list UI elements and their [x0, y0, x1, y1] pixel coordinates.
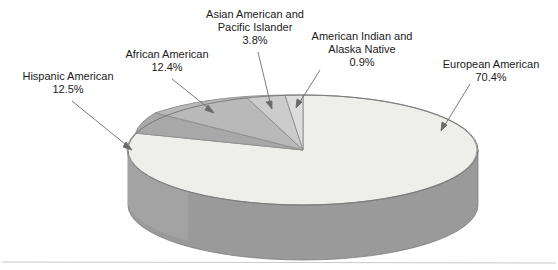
- label-african-american: African American 12.4%: [108, 48, 226, 74]
- label-european-american: European American 70.4%: [432, 58, 550, 84]
- label-hispanic-american-value: 12.5%: [8, 83, 128, 96]
- label-asian-american-pacific-islander-line1: Asian American and: [196, 8, 314, 21]
- label-african-american-name: African American: [108, 48, 226, 61]
- label-asian-american-pacific-islander-line2: Pacific Islander: [196, 21, 314, 34]
- label-american-indian-alaska-native-line2: Alaska Native: [300, 43, 424, 56]
- bottom-rule: [2, 262, 556, 263]
- label-european-american-name: European American: [432, 58, 550, 71]
- label-american-indian-alaska-native-value: 0.9%: [300, 56, 424, 69]
- label-american-indian-alaska-native: American Indian and Alaska Native 0.9%: [300, 30, 424, 69]
- pie-top-face: [127, 95, 478, 205]
- label-european-american-value: 70.4%: [432, 71, 550, 84]
- label-african-american-value: 12.4%: [108, 61, 226, 74]
- label-asian-american-pacific-islander-value: 3.8%: [196, 34, 314, 47]
- leader-hispanic-american: [72, 101, 132, 150]
- figure-page: Hispanic American 12.5% African American…: [0, 0, 558, 270]
- label-american-indian-alaska-native-line1: American Indian and: [300, 30, 424, 43]
- label-asian-american-pacific-islander: Asian American and Pacific Islander 3.8%: [196, 8, 314, 47]
